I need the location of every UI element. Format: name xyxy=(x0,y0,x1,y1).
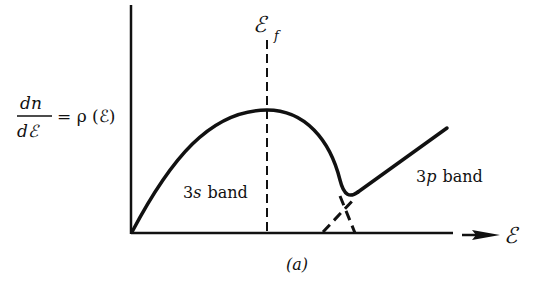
svg-text:f: f xyxy=(273,28,281,43)
y-axis-label: dn dℰ = ρ (ℰ) xyxy=(17,93,115,141)
figure-caption: (a) xyxy=(286,255,308,274)
svg-text:ℰ: ℰ xyxy=(253,12,269,37)
fermi-level-label: ℰ f xyxy=(253,12,281,43)
svg-text:= ρ (ℰ): = ρ (ℰ) xyxy=(57,106,115,126)
svg-text:dℰ: dℰ xyxy=(17,121,40,141)
3p-band-extrapolation xyxy=(323,198,355,232)
x-axis-arrow-icon xyxy=(462,230,500,240)
svg-text:dn: dn xyxy=(20,93,42,113)
density-of-states-diagram: dn dℰ = ρ (ℰ) ℰ f 3sband 3pband ℰ (a) xyxy=(0,0,534,288)
3s-band-curve xyxy=(132,110,358,232)
3s-band-extrapolation xyxy=(340,196,355,233)
3p-band-label: 3pband xyxy=(416,167,483,186)
3s-band-label: 3sband xyxy=(183,183,248,202)
x-axis-label: ℰ xyxy=(504,223,520,248)
